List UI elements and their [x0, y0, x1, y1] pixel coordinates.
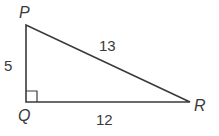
- vertex-label-q: Q: [18, 108, 30, 124]
- right-angle-marker: [26, 91, 37, 102]
- vertex-label-r: R: [194, 98, 206, 114]
- side-label-pr: 13: [99, 38, 116, 53]
- side-label-qr: 12: [96, 112, 113, 127]
- side-label-pq: 5: [4, 58, 12, 73]
- vertex-label-p: P: [19, 5, 30, 21]
- triangle-diagram: P Q R 5 13 12: [0, 0, 219, 136]
